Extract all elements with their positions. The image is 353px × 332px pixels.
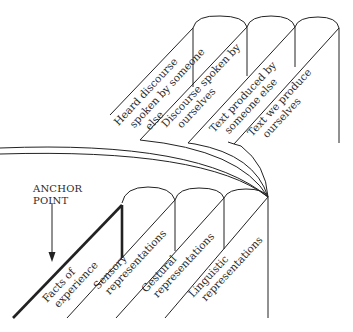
- semiotic-layers-diagram: ANCHOR POINT Heard discourse spoken by s…: [0, 0, 353, 332]
- top-arc-3: [295, 17, 339, 28]
- anchor-arrow-head: [49, 252, 56, 262]
- top-fold-2: [188, 143, 195, 144]
- bottom-panel-label-4: Linguistic representations: [186, 225, 265, 307]
- bottom-arc-3: [224, 189, 268, 198]
- bottom-arc-1: [122, 187, 175, 203]
- anchor-label-line1: ANCHOR: [32, 183, 83, 194]
- top-arc-1: [193, 16, 247, 28]
- anchor-label-line2: POINT: [33, 195, 68, 206]
- top-fold-4: [228, 142, 234, 144]
- bottom-arc-2: [175, 188, 224, 200]
- top-fold-3: [234, 144, 241, 146]
- top-arc-2: [247, 16, 295, 27]
